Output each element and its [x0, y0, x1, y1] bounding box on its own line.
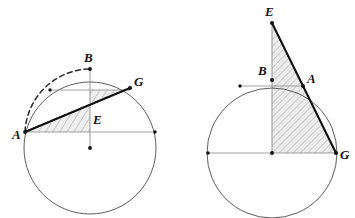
left-point-B-dot [88, 67, 92, 71]
right-point-E-dot [270, 21, 274, 25]
left-label-A: A [11, 127, 21, 142]
geometry-figure: A B G E [0, 0, 355, 218]
left-point-G-dot [128, 86, 132, 90]
right-point-B-dot [270, 78, 274, 82]
figure-root: A B G E [0, 0, 355, 218]
right-label-E: E [264, 4, 274, 19]
right-extra-dot-left [206, 151, 209, 154]
right-center-dot [270, 151, 274, 155]
right-point-A-dot [301, 84, 305, 88]
left-extra-dot-upper [48, 88, 51, 91]
right-point-G-dot [334, 151, 338, 155]
left-label-E: E [92, 112, 102, 127]
right-label-B: B [257, 63, 267, 78]
right-circle-diagram: E B A G [206, 4, 350, 218]
left-label-B: B [83, 50, 93, 65]
right-label-G: G [340, 147, 350, 162]
left-circle-diagram: A B G E [11, 50, 157, 214]
right-extra-dot-upper [238, 84, 241, 87]
left-label-G: G [134, 74, 144, 89]
right-label-A: A [306, 71, 316, 86]
left-center-dot [88, 146, 92, 150]
left-point-A-dot [23, 130, 27, 134]
left-extra-dot-right [153, 130, 156, 133]
